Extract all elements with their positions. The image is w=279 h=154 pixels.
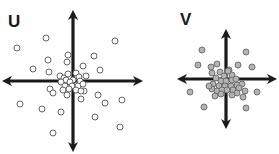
data-point: [92, 114, 98, 120]
data-point: [243, 105, 249, 111]
data-point: [50, 90, 56, 96]
scatter-diagram: [0, 0, 279, 154]
data-point: [97, 67, 103, 73]
data-point: [201, 104, 207, 110]
data-point: [243, 49, 249, 55]
data-point: [83, 73, 89, 79]
data-point: [199, 47, 205, 53]
data-point: [249, 64, 255, 70]
data-point: [17, 101, 23, 107]
data-point: [43, 35, 49, 41]
data-point: [240, 94, 246, 100]
data-point: [30, 66, 36, 72]
panel-v: [182, 34, 272, 124]
data-point: [235, 62, 241, 68]
data-point: [233, 76, 239, 82]
data-point: [187, 89, 193, 95]
data-point: [254, 89, 260, 95]
data-point: [39, 106, 45, 112]
data-point: [65, 71, 71, 77]
data-point: [58, 109, 64, 115]
data-point: [195, 62, 201, 68]
data-point: [112, 38, 118, 44]
data-point: [60, 87, 66, 93]
data-point: [206, 83, 212, 89]
data-point: [91, 53, 97, 59]
data-point: [80, 63, 86, 69]
data-point: [65, 52, 71, 58]
data-point: [95, 92, 101, 98]
panel-u: [7, 15, 138, 147]
data-point: [78, 96, 84, 102]
data-point: [80, 81, 86, 87]
data-point: [224, 87, 230, 93]
data-point: [225, 68, 231, 74]
data-point: [14, 45, 20, 51]
data-point: [212, 93, 218, 99]
data-point: [64, 92, 70, 98]
data-point: [208, 64, 214, 70]
data-point: [102, 100, 108, 106]
data-point: [50, 130, 56, 136]
data-point: [78, 88, 84, 94]
data-point: [46, 69, 52, 75]
data-point: [119, 97, 125, 103]
data-point: [66, 86, 72, 92]
data-point: [45, 57, 51, 63]
data-point: [64, 59, 70, 65]
data-point: [242, 88, 248, 94]
data-point: [209, 70, 215, 76]
data-point: [218, 91, 224, 97]
data-point: [117, 124, 123, 130]
data-point: [229, 92, 235, 98]
data-point: [214, 61, 220, 67]
